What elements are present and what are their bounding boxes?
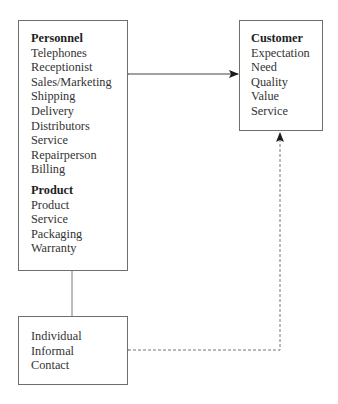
customer-item: Value — [251, 89, 310, 104]
personnel-item: Telephones — [31, 46, 112, 61]
contact-item: Informal — [31, 344, 82, 359]
customer-item: Need — [251, 60, 310, 75]
customer-item: Quality — [251, 75, 310, 90]
personnel-item: Distributors — [31, 119, 112, 134]
product-item: Packaging — [31, 227, 112, 242]
contact-item: Contact — [31, 358, 82, 373]
product-heading: Product — [31, 183, 112, 198]
personnel-item: Receptionist — [31, 60, 112, 75]
personnel-product-box: Personnel Telephones Receptionist Sales/… — [18, 20, 128, 271]
personnel-item: Repairperson — [31, 148, 112, 163]
personnel-item: Sales/Marketing — [31, 75, 112, 90]
contact-item: Individual — [31, 329, 82, 344]
product-item: Product — [31, 198, 112, 213]
customer-heading: Customer — [251, 31, 310, 46]
contact-box: Individual Informal Contact — [18, 316, 128, 385]
customer-item: Expectation — [251, 46, 310, 61]
personnel-item: Shipping — [31, 89, 112, 104]
personnel-item: Billing — [31, 162, 112, 177]
customer-item: Service — [251, 104, 310, 119]
product-item: Service — [31, 212, 112, 227]
personnel-heading: Personnel — [31, 31, 112, 46]
personnel-item: Service — [31, 133, 112, 148]
contact-customer-dashed-arrow — [128, 133, 280, 350]
personnel-item: Delivery — [31, 104, 112, 119]
product-item: Warranty — [31, 241, 112, 256]
customer-box: Customer Expectation Need Quality Value … — [239, 20, 323, 131]
